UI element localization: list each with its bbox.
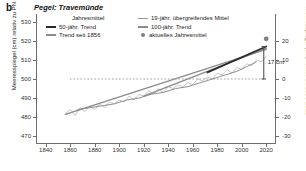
- y-axis-left-tick-label: 490: [21, 95, 31, 101]
- y-axis-right-tick: [276, 41, 279, 42]
- series-aktuelles-jahresmittel: [264, 36, 269, 41]
- x-axis-tick-label: 1860: [64, 147, 77, 153]
- x-axis-tick-label: 1920: [137, 147, 150, 153]
- y-axis-right-tick-label: 20: [282, 38, 289, 44]
- legend-item-100-jahr-trend: 100-jähr. Trend: [138, 24, 242, 30]
- y-axis-left-tick-label: 480: [21, 114, 31, 120]
- chart-legend: Jahresmittel 19-jähr. übergreifendes Mit…: [46, 15, 242, 41]
- legend-item-aktuelles-jahresmittel: aktuelles Jahresmittel: [138, 32, 242, 38]
- legend-item-trend-seit-1856: Trend seit 1856: [46, 32, 138, 38]
- legend-label: Trend seit 1856: [59, 32, 100, 38]
- dot-marker-icon: [141, 33, 145, 37]
- x-axis-tick-label: 1980: [211, 147, 224, 153]
- series-50-jahr-trend: [207, 47, 266, 73]
- x-axis-tick-label: 2020: [260, 147, 273, 153]
- line-swatch-icon: [46, 26, 56, 28]
- y-axis-right-title: Meeresspiegel (cm) relativ zu 1993-2012: [305, 0, 306, 131]
- legend-label: 100-jähr. Trend: [151, 24, 191, 30]
- y-axis-right-tick: [276, 98, 279, 99]
- line-swatch-icon: [46, 34, 56, 36]
- legend-row: Jahresmittel 19-jähr. übergreifendes Mit…: [46, 15, 242, 21]
- legend-label: 19-jähr. übergreifendes Mittel: [151, 15, 229, 21]
- legend-label: 50-jähr. Trend: [59, 24, 96, 30]
- legend-item-50-jahr-trend: 50-jähr. Trend: [46, 24, 138, 30]
- y-axis-left-tick-label: 520: [21, 38, 31, 44]
- legend-item-19-jahr-mittel: 19-jähr. übergreifendes Mittel: [138, 15, 242, 21]
- y-axis-right-tick: [276, 117, 279, 118]
- y-axis-right-tick: [276, 79, 279, 80]
- legend-label: aktuelles Jahresmittel: [149, 32, 207, 38]
- x-axis-tick-label: 1960: [186, 147, 199, 153]
- chart-figure: b Pegel: Travemünde Meeresspiegel (cm) r…: [0, 0, 306, 171]
- y-axis-right-tick: [276, 136, 279, 137]
- delta-annotation-label: 17 cm: [268, 59, 284, 65]
- legend-label: Jahresmittel: [59, 15, 104, 21]
- y-axis-right-tick-label: -10: [282, 95, 291, 101]
- legend-item-jahresmittel: Jahresmittel: [46, 15, 138, 21]
- x-axis-tick-label: 1940: [162, 147, 175, 153]
- y-axis-right-tick-label: 0: [282, 76, 285, 82]
- legend-row: 50-jähr. Trend 100-jähr. Trend: [46, 24, 242, 30]
- x-axis-tick-label: 1880: [88, 147, 101, 153]
- y-axis-left-tick-label: 530: [21, 19, 31, 25]
- page-title: Pegel: Travemünde: [34, 3, 103, 12]
- y-axis-left-tick-label: 510: [21, 57, 31, 63]
- line-swatch-icon: [138, 18, 148, 19]
- x-axis-tick-label: 1900: [113, 147, 126, 153]
- legend-row: Trend seit 1856 aktuelles Jahresmittel: [46, 32, 242, 38]
- x-axis-tick-label: 2000: [235, 147, 248, 153]
- x-axis-tick-label: 1840: [39, 147, 52, 153]
- y-axis-right-tick-label: -20: [282, 114, 291, 120]
- line-swatch-icon: [138, 26, 148, 28]
- y-axis-left-tick-label: 500: [21, 76, 31, 82]
- series-100-jahr-trend: [144, 48, 266, 96]
- y-axis-left-title: Meeresspiegel (cm) relativ zu PN: [11, 0, 17, 106]
- line-swatch-icon: [46, 18, 56, 19]
- y-axis-right-tick-label: -30: [282, 133, 291, 139]
- y-axis-left-tick-label: 470: [21, 133, 31, 139]
